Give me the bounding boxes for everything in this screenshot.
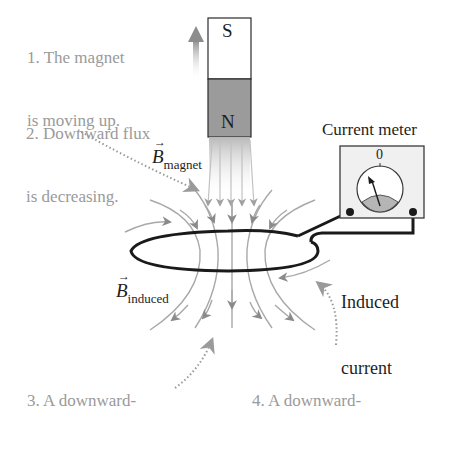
- vector-arrow-icon: →: [118, 269, 130, 284]
- caption-step-2: 2. Downward flux is decreasing.: [26, 81, 150, 249]
- caption-step-2-line-2: is decreasing.: [26, 186, 150, 207]
- vector-arrow-icon: →: [154, 135, 166, 150]
- meter-terminal-right: [409, 208, 417, 216]
- meter-zero-label: 0: [376, 147, 383, 163]
- flux-shading: [209, 137, 250, 197]
- magnet-north-label: N: [221, 111, 235, 133]
- current-meter-label: Current meter: [322, 119, 417, 140]
- motion-up-arrow-icon: [188, 26, 204, 80]
- caption-step-3: 3. A downward- pointing field is needed …: [27, 343, 145, 455]
- b-induced-label: →Binduced: [116, 280, 169, 302]
- caption-step-1-line-1: 1. The magnet: [27, 47, 124, 68]
- diagram: 1. The magnet is moving up. 2. Downward …: [0, 0, 455, 455]
- caption-step-3-line-1: 3. A downward-: [27, 389, 145, 412]
- b-magnet-label: →Bmagnet: [152, 146, 202, 168]
- caption-step-2-line-1: 2. Downward flux: [26, 123, 150, 144]
- meter-terminal-left: [346, 208, 354, 216]
- magnet-south-label: S: [222, 20, 233, 42]
- induced-field-lines: [125, 190, 330, 330]
- induced-current-label: Induced current: [341, 247, 399, 423]
